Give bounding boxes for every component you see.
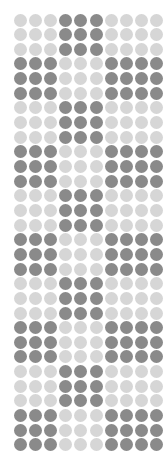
matrix-dot: [74, 424, 87, 437]
matrix-dot: [44, 219, 57, 232]
matrix-dot: [29, 277, 42, 290]
matrix-dot: [14, 263, 27, 276]
matrix-dot: [105, 87, 118, 100]
matrix-dot: [135, 277, 148, 290]
matrix-dot: [105, 101, 118, 114]
matrix-dot: [74, 72, 87, 85]
matrix-dot: [29, 380, 42, 393]
matrix-dot: [44, 43, 57, 56]
matrix-dot: [90, 424, 103, 437]
matrix-dot: [44, 424, 57, 437]
matrix-dot: [74, 101, 87, 114]
matrix-dot: [90, 175, 103, 188]
matrix-dot: [14, 57, 27, 70]
matrix-dot: [44, 57, 57, 70]
matrix-dot: [14, 365, 27, 378]
matrix-dot: [44, 292, 57, 305]
matrix-dot: [150, 145, 163, 158]
matrix-dot: [44, 336, 57, 349]
matrix-dot: [120, 175, 133, 188]
matrix-dot: [90, 131, 103, 144]
matrix-dot: [59, 145, 72, 158]
matrix-dot: [105, 14, 118, 27]
matrix-dot: [29, 263, 42, 276]
matrix-dot: [90, 189, 103, 202]
matrix-dot: [150, 160, 163, 173]
matrix-dot: [44, 350, 57, 363]
matrix-dot: [105, 365, 118, 378]
matrix-dot: [150, 409, 163, 422]
matrix-dot: [14, 131, 27, 144]
matrix-dot: [120, 394, 133, 407]
matrix-dot: [135, 101, 148, 114]
matrix-dot: [59, 233, 72, 246]
matrix-dot: [105, 263, 118, 276]
matrix-dot: [105, 321, 118, 334]
matrix-dot: [135, 204, 148, 217]
matrix-dot: [29, 116, 42, 129]
matrix-dot: [90, 116, 103, 129]
matrix-dot: [150, 14, 163, 27]
matrix-dot: [74, 394, 87, 407]
matrix-dot: [29, 292, 42, 305]
matrix-dot: [74, 336, 87, 349]
matrix-dot: [74, 116, 87, 129]
matrix-dot: [150, 438, 163, 451]
matrix-dot: [29, 365, 42, 378]
matrix-dot: [59, 307, 72, 320]
matrix-dot: [135, 350, 148, 363]
matrix-dot: [120, 14, 133, 27]
matrix-dot: [90, 321, 103, 334]
matrix-dot: [59, 394, 72, 407]
matrix-dot: [74, 409, 87, 422]
matrix-dot: [14, 438, 27, 451]
matrix-dot: [90, 292, 103, 305]
matrix-dot: [105, 175, 118, 188]
matrix-dot: [105, 43, 118, 56]
matrix-dot: [105, 28, 118, 41]
matrix-dot: [150, 277, 163, 290]
matrix-dot: [135, 160, 148, 173]
matrix-dot: [44, 28, 57, 41]
matrix-dot: [29, 131, 42, 144]
matrix-dot: [59, 380, 72, 393]
matrix-dot: [59, 263, 72, 276]
matrix-dot: [90, 219, 103, 232]
matrix-dot: [150, 394, 163, 407]
matrix-dot: [74, 160, 87, 173]
matrix-dot: [105, 409, 118, 422]
matrix-dot: [59, 438, 72, 451]
matrix-dot: [14, 307, 27, 320]
matrix-dot: [59, 43, 72, 56]
matrix-dot: [29, 14, 42, 27]
matrix-dot: [150, 321, 163, 334]
matrix-dot: [59, 57, 72, 70]
matrix-dot: [150, 336, 163, 349]
matrix-dot: [90, 409, 103, 422]
matrix-dot: [150, 28, 163, 41]
matrix-dot: [120, 131, 133, 144]
matrix-dot: [59, 87, 72, 100]
matrix-dot: [120, 233, 133, 246]
matrix-dot: [150, 43, 163, 56]
matrix-dot: [74, 277, 87, 290]
matrix-dot: [14, 43, 27, 56]
matrix-dot: [135, 189, 148, 202]
matrix-dot: [14, 277, 27, 290]
matrix-dot: [59, 424, 72, 437]
matrix-dot: [74, 438, 87, 451]
matrix-dot: [44, 409, 57, 422]
matrix-dot: [105, 189, 118, 202]
matrix-dot: [29, 321, 42, 334]
matrix-dot: [74, 307, 87, 320]
matrix-dot: [150, 307, 163, 320]
matrix-dot: [44, 175, 57, 188]
matrix-dot: [135, 409, 148, 422]
matrix-dot: [135, 292, 148, 305]
matrix-dot: [120, 336, 133, 349]
matrix-dot: [59, 116, 72, 129]
matrix-dot: [120, 43, 133, 56]
matrix-dot: [105, 116, 118, 129]
matrix-dot: [74, 28, 87, 41]
matrix-dot: [105, 307, 118, 320]
